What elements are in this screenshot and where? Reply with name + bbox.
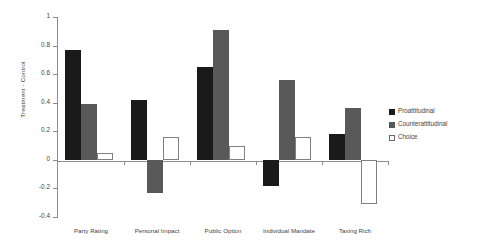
legend-swatch-icon xyxy=(389,109,395,115)
y-tick-label: -0.2 xyxy=(39,183,50,190)
bar-chart: Treatment - Control 10.80.60.40.20-0.2-0… xyxy=(0,0,477,249)
y-tick-label: 0 xyxy=(46,155,50,162)
legend-label: Counterattitudinal xyxy=(398,121,447,127)
y-tick-label: 0.8 xyxy=(41,41,50,48)
legend-swatch-icon xyxy=(389,135,395,141)
x-tick xyxy=(124,161,125,165)
x-label-individual-mandate: Individual Mandate xyxy=(263,227,315,234)
x-label-public-option: Public Option xyxy=(205,227,242,234)
bar-proattitudinal-public-option xyxy=(197,67,213,160)
legend-item-counterattitudinal[interactable]: Counterattitudinal xyxy=(389,118,447,131)
legend-item-proattitudinal[interactable]: Proattitudinal xyxy=(389,105,447,118)
zero-baseline xyxy=(57,161,388,162)
legend-label: Proattitudinal xyxy=(398,108,435,114)
x-tick xyxy=(388,161,389,165)
bar-counterattitudinal-personal-impact xyxy=(147,160,163,193)
bar-choice-party-rating xyxy=(97,153,113,160)
x-tick xyxy=(322,161,323,165)
legend-swatch-icon xyxy=(389,122,395,128)
bar-counterattitudinal-taxing-rich xyxy=(345,108,361,159)
bar-counterattitudinal-party-rating xyxy=(81,104,97,160)
x-tick xyxy=(190,161,191,165)
legend-label: Choice xyxy=(398,134,418,140)
y-tick-label: 0.2 xyxy=(41,126,50,133)
bar-proattitudinal-party-rating xyxy=(65,50,81,160)
x-label-personal-impact: Personal Impact xyxy=(135,227,180,234)
y-axis-title: Treatment - Control xyxy=(19,46,26,134)
chart-legend: ProattitudinalCounterattitudinalChoice xyxy=(389,105,447,144)
x-label-taxing-rich: Taxing Rich xyxy=(339,227,371,234)
bar-choice-individual-mandate xyxy=(295,137,311,160)
bar-choice-personal-impact xyxy=(163,137,179,160)
bar-choice-taxing-rich xyxy=(361,160,377,204)
y-tick: 0.6 xyxy=(53,74,58,75)
y-axis-line xyxy=(57,17,58,217)
y-tick: -0.2 xyxy=(53,188,58,189)
y-tick: 0.2 xyxy=(53,131,58,132)
bar-proattitudinal-taxing-rich xyxy=(329,134,345,160)
y-tick-label: 0.6 xyxy=(41,69,50,76)
y-tick: 0.8 xyxy=(53,46,58,47)
bar-counterattitudinal-individual-mandate xyxy=(279,80,295,160)
y-tick-label: 0.4 xyxy=(41,98,50,105)
y-tick: -0.4 xyxy=(53,217,58,218)
bar-choice-public-option xyxy=(229,146,245,160)
y-tick: 0.4 xyxy=(53,103,58,104)
x-label-party-rating: Party Rating xyxy=(74,227,108,234)
bar-proattitudinal-individual-mandate xyxy=(263,160,279,186)
y-tick: 0 xyxy=(53,160,58,161)
plot-area: 10.80.60.40.20-0.2-0.4 Party RatingPerso… xyxy=(58,17,388,217)
y-tick-label: 1 xyxy=(46,12,50,19)
legend-item-choice[interactable]: Choice xyxy=(389,131,447,144)
bar-proattitudinal-personal-impact xyxy=(131,100,147,160)
y-tick: 1 xyxy=(53,17,58,18)
x-tick xyxy=(256,161,257,165)
bar-counterattitudinal-public-option xyxy=(213,30,229,160)
y-tick-label: -0.4 xyxy=(39,212,50,219)
